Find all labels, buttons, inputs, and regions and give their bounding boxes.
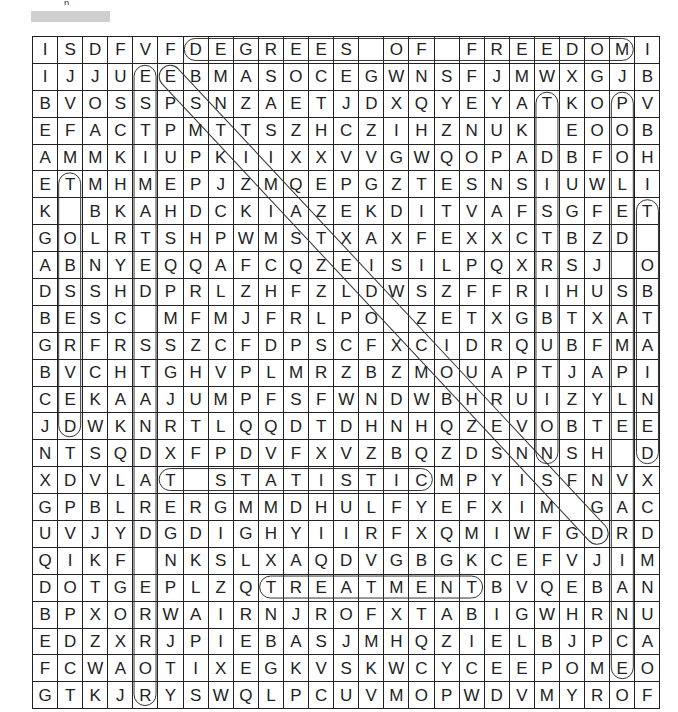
grid-cell[interactable]: F	[258, 305, 283, 332]
grid-cell[interactable]: J	[208, 171, 233, 198]
grid-cell[interactable]: L	[610, 171, 635, 198]
grid-cell[interactable]: S	[484, 440, 509, 467]
grid-cell[interactable]: D	[283, 413, 308, 440]
grid-cell[interactable]: E	[434, 171, 459, 198]
grid-cell[interactable]: O	[108, 601, 133, 628]
grid-cell[interactable]: R	[158, 413, 183, 440]
grid-cell[interactable]	[610, 440, 635, 467]
grid-cell[interactable]: Z	[233, 171, 258, 198]
grid-cell[interactable]: E	[434, 225, 459, 252]
grid-cell[interactable]: O	[283, 63, 308, 90]
grid-cell[interactable]: E	[33, 117, 58, 144]
grid-cell[interactable]: D	[58, 413, 83, 440]
grid-cell[interactable]: P	[459, 252, 484, 279]
grid-cell[interactable]: M	[585, 655, 610, 682]
grid-cell[interactable]: N	[33, 440, 58, 467]
grid-cell[interactable]: M	[610, 37, 635, 64]
grid-cell[interactable]: V	[610, 467, 635, 494]
grid-cell[interactable]: F	[233, 332, 258, 359]
grid-cell[interactable]: D	[133, 279, 158, 306]
grid-cell[interactable]: C	[83, 359, 108, 386]
grid-cell[interactable]: O	[534, 413, 559, 440]
grid-cell[interactable]: V	[334, 144, 359, 171]
grid-cell[interactable]: D	[183, 521, 208, 548]
grid-cell[interactable]: H	[258, 279, 283, 306]
grid-cell[interactable]: I	[459, 628, 484, 655]
grid-cell[interactable]: M	[233, 494, 258, 521]
grid-cell[interactable]: T	[283, 467, 308, 494]
grid-cell[interactable]: N	[534, 440, 559, 467]
grid-cell[interactable]: C	[509, 225, 534, 252]
grid-cell[interactable]: I	[409, 252, 434, 279]
grid-cell[interactable]: X	[635, 467, 660, 494]
grid-cell[interactable]: M	[58, 144, 83, 171]
grid-cell[interactable]: R	[283, 574, 308, 601]
grid-cell[interactable]: F	[459, 63, 484, 90]
grid-cell[interactable]: D	[484, 682, 509, 709]
grid-cell[interactable]: K	[559, 90, 584, 117]
grid-cell[interactable]: V	[208, 359, 233, 386]
grid-cell[interactable]: J	[233, 305, 258, 332]
grid-cell[interactable]: L	[359, 494, 384, 521]
grid-cell[interactable]: K	[108, 413, 133, 440]
grid-cell[interactable]: K	[359, 198, 384, 225]
grid-cell[interactable]: B	[559, 144, 584, 171]
grid-cell[interactable]: U	[534, 332, 559, 359]
grid-cell[interactable]: X	[334, 225, 359, 252]
grid-cell[interactable]: T	[133, 359, 158, 386]
grid-cell[interactable]: R	[183, 279, 208, 306]
grid-cell[interactable]: N	[409, 63, 434, 90]
grid-cell[interactable]: C	[33, 386, 58, 413]
grid-cell[interactable]: A	[334, 574, 359, 601]
grid-cell[interactable]: N	[635, 574, 660, 601]
grid-cell[interactable]: I	[434, 332, 459, 359]
grid-cell[interactable]: J	[484, 63, 509, 90]
grid-cell[interactable]: I	[208, 601, 233, 628]
grid-cell[interactable]: D	[58, 628, 83, 655]
grid-cell[interactable]: O	[585, 90, 610, 117]
grid-cell[interactable]: T	[309, 225, 334, 252]
grid-cell[interactable]: E	[434, 494, 459, 521]
grid-cell[interactable]: B	[484, 574, 509, 601]
grid-cell[interactable]: E	[334, 63, 359, 90]
grid-cell[interactable]: O	[334, 601, 359, 628]
grid-cell[interactable]: Q	[434, 521, 459, 548]
grid-cell[interactable]: T	[559, 305, 584, 332]
grid-cell[interactable]: R	[108, 225, 133, 252]
grid-cell[interactable]: R	[133, 628, 158, 655]
grid-cell[interactable]	[635, 225, 660, 252]
grid-cell[interactable]: F	[108, 547, 133, 574]
grid-cell[interactable]: N	[83, 252, 108, 279]
grid-cell[interactable]: Q	[33, 547, 58, 574]
grid-cell[interactable]: V	[359, 547, 384, 574]
grid-cell[interactable]: R	[585, 682, 610, 709]
grid-cell[interactable]: H	[409, 117, 434, 144]
grid-cell[interactable]: P	[183, 144, 208, 171]
grid-cell[interactable]: L	[233, 547, 258, 574]
grid-cell[interactable]: A	[635, 332, 660, 359]
grid-cell[interactable]: B	[559, 413, 584, 440]
grid-cell[interactable]: J	[610, 63, 635, 90]
grid-cell[interactable]: Z	[233, 279, 258, 306]
grid-cell[interactable]: S	[133, 90, 158, 117]
grid-cell[interactable]: F	[83, 332, 108, 359]
grid-cell[interactable]: B	[33, 359, 58, 386]
grid-cell[interactable]: S	[258, 117, 283, 144]
grid-cell[interactable]: M	[258, 171, 283, 198]
grid-cell[interactable]: T	[258, 574, 283, 601]
grid-cell[interactable]	[133, 305, 158, 332]
grid-cell[interactable]: Q	[108, 440, 133, 467]
grid-cell[interactable]: I	[509, 494, 534, 521]
grid-cell[interactable]: I	[384, 467, 409, 494]
grid-cell[interactable]: W	[158, 601, 183, 628]
grid-cell[interactable]: G	[585, 494, 610, 521]
grid-cell[interactable]: R	[534, 252, 559, 279]
grid-cell[interactable]	[610, 252, 635, 279]
grid-cell[interactable]: E	[309, 171, 334, 198]
grid-cell[interactable]: R	[108, 332, 133, 359]
grid-cell[interactable]: V	[309, 655, 334, 682]
grid-cell[interactable]: A	[509, 144, 534, 171]
grid-cell[interactable]: B	[359, 359, 384, 386]
grid-cell[interactable]: D	[258, 332, 283, 359]
grid-cell[interactable]: C	[610, 628, 635, 655]
